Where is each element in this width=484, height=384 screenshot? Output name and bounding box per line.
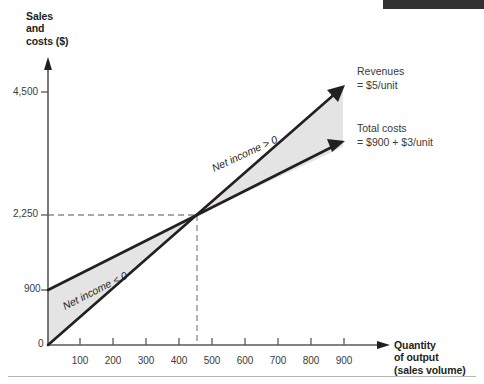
x-axis-ticks (80, 338, 344, 345)
y-axis-ticks (41, 92, 48, 290)
x-tick-label-100: 100 (72, 355, 89, 367)
x-tick-label-400: 400 (171, 355, 188, 367)
x-axis-title-line-1: Quantity (394, 339, 466, 351)
x-tick-label-200: 200 (105, 355, 122, 367)
break-even-chart: Net income < 0 Net income > 0 (0, 0, 484, 384)
x-tick-label-600: 600 (237, 355, 254, 367)
x-tick-label-900: 900 (336, 355, 353, 367)
x-tick-label-700: 700 (270, 355, 287, 367)
x-tick-label-500: 500 (204, 355, 221, 367)
y-axis-title: Sales and costs ($) (26, 10, 68, 47)
y-tick-label-4500: 4,500 (13, 86, 38, 98)
total-costs-annotation-line-1: Total costs (357, 121, 433, 135)
y-tick-label-2250: 2,250 (13, 208, 38, 220)
x-tick-label-800: 800 (303, 355, 320, 367)
y-axis-title-line-2: and (26, 22, 68, 34)
x-axis-title-line-3: (sales volume) (394, 364, 466, 376)
x-axis-title: Quantity of output (sales volume) (394, 339, 466, 376)
total-costs-annotation-line-2: = $900 + $3/unit (357, 135, 433, 149)
x-tick-label-300: 300 (138, 355, 155, 367)
revenues-annotation-line-2: = $5/unit (357, 78, 404, 92)
revenues-annotation: Revenues = $5/unit (357, 64, 404, 92)
y-tick-label-0: 0 (38, 338, 44, 350)
y-axis-arrowhead (44, 57, 52, 70)
y-tick-label-900: 900 (24, 283, 41, 295)
y-axis-title-line-1: Sales (26, 10, 68, 22)
x-axis-title-line-2: of output (394, 351, 466, 363)
revenues-annotation-line-1: Revenues (357, 64, 404, 78)
total-costs-line (48, 145, 336, 290)
y-axis-title-line-3: costs ($) (26, 35, 68, 47)
page-bottom-rule (8, 376, 476, 377)
x-axis-arrowhead (377, 341, 390, 349)
total-costs-annotation: Total costs = $900 + $3/unit (357, 121, 433, 149)
